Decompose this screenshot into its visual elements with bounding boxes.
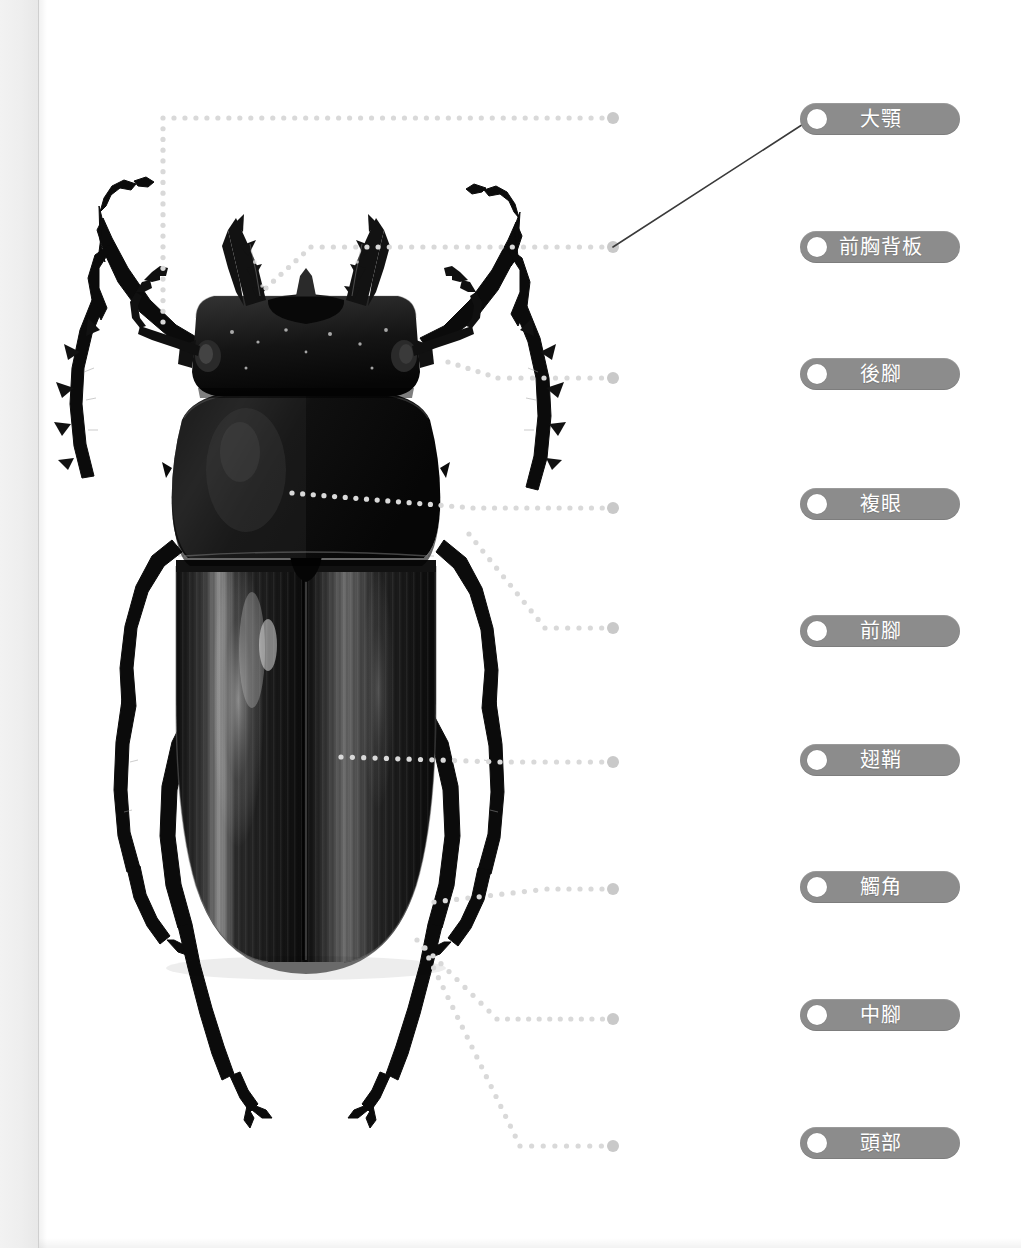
leader-3	[445, 359, 604, 380]
leader-endpoint-3[interactable]	[607, 372, 619, 384]
label-text: 中腳	[827, 1005, 960, 1025]
label-text: 複眼	[827, 494, 960, 514]
leader-endpoint-9[interactable]	[607, 1140, 619, 1152]
leader-9	[421, 945, 604, 1148]
label-connector-knob[interactable]	[807, 109, 827, 129]
leader-6	[338, 754, 604, 764]
leader-endpoint-5[interactable]	[607, 622, 619, 634]
label-text: 前胸背板	[827, 237, 960, 257]
label-antenna[interactable]: 觸角	[800, 871, 960, 903]
label-text: 頭部	[827, 1133, 960, 1153]
label-head[interactable]: 頭部	[800, 1127, 960, 1159]
label-connector-knob[interactable]	[807, 364, 827, 384]
label-text: 翅鞘	[827, 750, 960, 770]
leader-5	[466, 531, 604, 630]
label-connector-knob[interactable]	[807, 1133, 827, 1153]
anatomy-labeling-canvas: 大顎前胸背板後腳複眼前腳翅鞘觸角中腳頭部	[0, 0, 1021, 1248]
label-text: 觸角	[827, 877, 960, 897]
leader-2	[263, 244, 604, 290]
label-connector-knob[interactable]	[807, 494, 827, 514]
label-connector-knob[interactable]	[807, 621, 827, 641]
leader-endpoints[interactable]	[607, 112, 619, 1152]
leader-endpoint-4[interactable]	[607, 502, 619, 514]
leader-7	[431, 886, 604, 904]
label-connector-knob[interactable]	[807, 750, 827, 770]
label-text: 後腳	[827, 364, 960, 384]
label-pronotum[interactable]: 前胸背板	[800, 231, 960, 263]
label-midleg[interactable]: 中腳	[800, 999, 960, 1031]
leader-4	[289, 490, 604, 510]
label-text: 大顎	[827, 109, 960, 129]
label-text: 前腳	[827, 621, 960, 641]
label-mandible[interactable]: 大顎	[800, 103, 960, 135]
label-hindleg[interactable]: 後腳	[800, 358, 960, 390]
label-connector-knob[interactable]	[807, 877, 827, 897]
label-connector-knob[interactable]	[807, 1005, 827, 1025]
label-compoundeye[interactable]: 複眼	[800, 488, 960, 520]
leader-endpoint-6[interactable]	[607, 756, 619, 768]
leader-8	[414, 937, 605, 1021]
label-connector-knob[interactable]	[807, 237, 827, 257]
label-foreleg[interactable]: 前腳	[800, 615, 960, 647]
active-connector-line	[613, 119, 811, 247]
leader-1	[160, 115, 604, 324]
leader-endpoint-1[interactable]	[607, 112, 619, 124]
leader-endpoint-8[interactable]	[607, 1013, 619, 1025]
leader-dots	[160, 115, 605, 1148]
leader-endpoint-7[interactable]	[607, 883, 619, 895]
label-elytra[interactable]: 翅鞘	[800, 744, 960, 776]
